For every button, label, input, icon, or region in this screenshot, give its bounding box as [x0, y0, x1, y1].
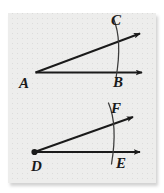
geometry-figure-screenshot: A B C D E F — [0, 0, 164, 193]
ray-df — [35, 117, 134, 152]
point-label-e: E — [116, 156, 126, 171]
point-label-a: A — [19, 76, 29, 91]
point-label-f: F — [111, 101, 121, 116]
point-label-d: D — [31, 159, 42, 174]
point-label-b: B — [113, 75, 123, 90]
point-label-c: C — [111, 13, 121, 28]
vertex-dot-d — [31, 149, 37, 155]
ray-ac — [36, 34, 141, 73]
upper-angle-group — [36, 19, 143, 79]
angle-diagram-svg — [0, 0, 164, 193]
